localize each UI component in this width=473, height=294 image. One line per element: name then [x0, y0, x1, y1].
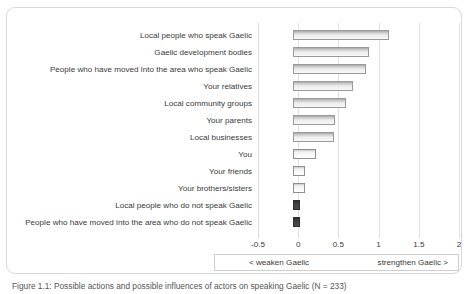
category-label: Gaelic development bodies	[11, 44, 257, 61]
bar	[293, 81, 352, 91]
category-label: People who have moved into the area who …	[11, 61, 257, 78]
x-tick-label: 1.5	[413, 240, 424, 249]
x-tick-label: 0	[296, 240, 301, 249]
bar	[293, 47, 369, 57]
gridline	[459, 23, 460, 238]
bar-row	[258, 146, 459, 163]
bar	[293, 166, 305, 176]
category-label: Local people who do not speak Gaelic	[11, 197, 257, 214]
bar-row	[258, 78, 459, 95]
category-label: Local community groups	[11, 95, 257, 112]
bar-row	[258, 180, 459, 197]
category-label: Your relatives	[11, 78, 257, 95]
bar-row	[258, 197, 459, 214]
bar-row	[258, 112, 459, 129]
legend-weaken-label: < weaken Gaelic	[249, 258, 309, 267]
category-label: You	[11, 146, 257, 163]
bar	[293, 132, 334, 142]
bars-canvas	[258, 23, 459, 238]
bar	[293, 149, 316, 159]
x-tick-label: -0.5	[251, 240, 265, 249]
bar-row	[258, 44, 459, 61]
bar	[293, 30, 389, 40]
x-tick-label: 2	[457, 240, 462, 249]
bar-row	[258, 61, 459, 78]
bar	[293, 217, 299, 227]
bar	[293, 200, 299, 210]
direction-legend: < weaken Gaelic strengthen Gaelic >	[214, 254, 459, 271]
x-tick-label: 1	[376, 240, 381, 249]
bar-row	[258, 95, 459, 112]
legend-strengthen-label: strengthen Gaelic >	[378, 258, 448, 267]
bar-row	[258, 27, 459, 44]
bar-row	[258, 129, 459, 146]
category-axis-labels: Local people who speak GaelicGaelic deve…	[11, 27, 257, 231]
category-label: People who have moved into the area who …	[11, 214, 257, 231]
category-label: Your brothers/sisters	[11, 180, 257, 197]
category-label: Your parents	[11, 112, 257, 129]
chart-plot-area: Local people who speak GaelicGaelic deve…	[7, 8, 463, 275]
x-axis-tick-labels: -0.500.511.52	[258, 240, 459, 253]
bar-row	[258, 163, 459, 180]
figure-caption: Figure 1.1: Possible actions and possibl…	[12, 281, 467, 291]
bar	[293, 183, 304, 193]
bar	[293, 98, 345, 108]
category-label: Your friends	[11, 163, 257, 180]
bar	[293, 115, 335, 125]
category-label: Local people who speak Gaelic	[11, 27, 257, 44]
x-tick-label: 0.5	[333, 240, 344, 249]
category-label: Local businesses	[11, 129, 257, 146]
chart-figure-frame: Local people who speak GaelicGaelic deve…	[6, 7, 462, 274]
bar	[293, 64, 365, 74]
bar-row	[258, 214, 459, 231]
